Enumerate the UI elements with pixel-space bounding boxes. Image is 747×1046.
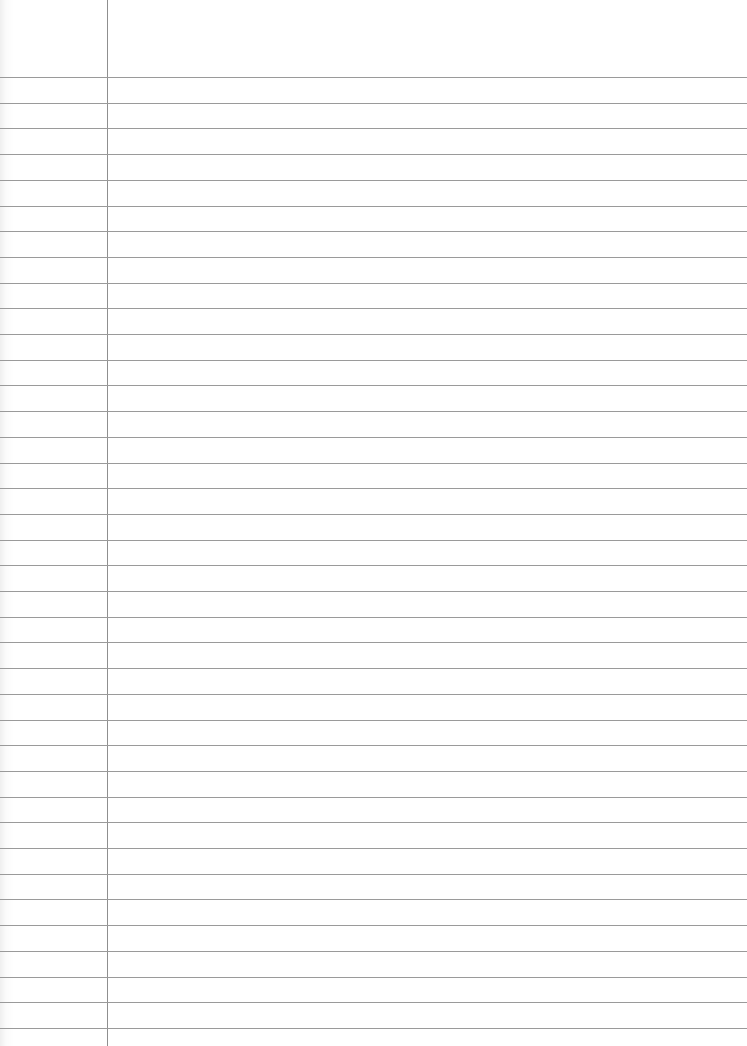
ruled-line: [0, 154, 747, 155]
ruled-line: [0, 206, 747, 207]
ruled-line: [0, 1028, 747, 1029]
ruled-line: [0, 977, 747, 978]
ruled-line: [0, 514, 747, 515]
ruled-line: [0, 642, 747, 643]
ruled-line: [0, 540, 747, 541]
ruled-line: [0, 1002, 747, 1003]
lined-paper: [0, 0, 747, 1046]
ruled-line: [0, 283, 747, 284]
ruled-line: [0, 951, 747, 952]
ruled-line: [0, 180, 747, 181]
ruled-line: [0, 565, 747, 566]
ruled-line: [0, 488, 747, 489]
ruled-line: [0, 720, 747, 721]
ruled-line: [0, 874, 747, 875]
ruled-line: [0, 745, 747, 746]
ruled-line: [0, 77, 747, 78]
ruled-line: [0, 257, 747, 258]
ruled-line: [0, 308, 747, 309]
ruled-line: [0, 411, 747, 412]
ruled-line: [0, 822, 747, 823]
ruled-line: [0, 591, 747, 592]
margin-line: [107, 0, 108, 1046]
ruled-line: [0, 360, 747, 361]
ruled-line: [0, 385, 747, 386]
ruled-line: [0, 899, 747, 900]
ruled-line: [0, 231, 747, 232]
ruled-line: [0, 771, 747, 772]
ruled-line: [0, 463, 747, 464]
ruled-line: [0, 925, 747, 926]
ruled-line: [0, 128, 747, 129]
ruled-line: [0, 668, 747, 669]
ruled-line: [0, 694, 747, 695]
ruled-line: [0, 103, 747, 104]
ruled-line: [0, 848, 747, 849]
ruled-line: [0, 437, 747, 438]
ruled-line: [0, 797, 747, 798]
ruled-line: [0, 334, 747, 335]
ruled-line: [0, 617, 747, 618]
